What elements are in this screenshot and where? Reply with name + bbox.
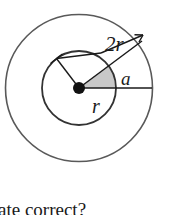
figure-container: 2r a r ate correct? [0,0,170,215]
cropped-caption: ate correct? [0,199,86,215]
outer-radius-label: 2r [105,32,125,56]
angle-label: a [121,68,131,89]
inner-radius-end-tick [51,54,63,64]
inner-radius-label: r [92,95,100,117]
center-dot [73,82,85,94]
concentric-circles-diagram: 2r a r ate correct? [0,0,170,215]
